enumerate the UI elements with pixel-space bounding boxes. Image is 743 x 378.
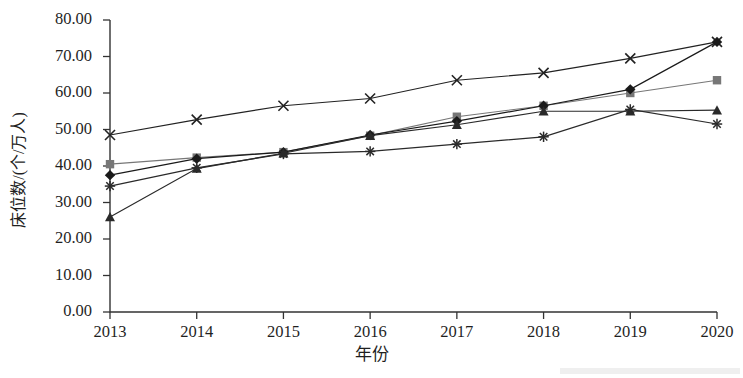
y-axis-tick-label: 30.00 bbox=[55, 192, 92, 212]
series-line bbox=[110, 80, 717, 164]
data-point-square bbox=[106, 160, 114, 168]
page-edge-artifact bbox=[560, 368, 740, 374]
x-axis-tick-label: 2013 bbox=[94, 322, 127, 342]
y-axis-tick-label: 50.00 bbox=[55, 119, 92, 139]
data-point-asterisk bbox=[365, 146, 375, 156]
data-point-square bbox=[713, 76, 721, 84]
y-axis-tick-label: 40.00 bbox=[55, 155, 92, 175]
series-triangle bbox=[105, 105, 722, 221]
data-point-diamond bbox=[105, 170, 115, 180]
x-axis-tick-label: 2016 bbox=[354, 322, 387, 342]
y-axis-tick-label: 60.00 bbox=[55, 82, 92, 102]
y-axis-tick-label: 0.00 bbox=[63, 301, 92, 321]
x-axis-tick-label: 2017 bbox=[440, 322, 473, 342]
data-point-asterisk bbox=[452, 139, 462, 149]
data-point-asterisk bbox=[192, 163, 202, 173]
line-chart: 床位数/(个/万人) 年份 80.0070.0060.0050.0040.003… bbox=[0, 0, 743, 378]
x-axis-tick-label: 2014 bbox=[180, 322, 213, 342]
y-axis-title: 床位数/(个/万人) bbox=[5, 70, 29, 270]
y-axis-tick-label: 10.00 bbox=[55, 265, 92, 285]
data-point-asterisk bbox=[625, 104, 635, 114]
data-point-asterisk bbox=[538, 132, 548, 142]
series-line bbox=[110, 42, 717, 135]
data-point-asterisk bbox=[712, 119, 722, 129]
series-asterisk bbox=[105, 104, 722, 191]
y-axis-tick-label: 70.00 bbox=[55, 46, 92, 66]
y-axis-tick-label: 20.00 bbox=[55, 228, 92, 248]
data-point-asterisk bbox=[278, 149, 288, 159]
x-axis-title: 年份 bbox=[0, 340, 743, 365]
x-axis-tick-label: 2019 bbox=[614, 322, 647, 342]
y-axis-tick-label: 80.00 bbox=[55, 9, 92, 29]
x-axis-tick-label: 2015 bbox=[267, 322, 300, 342]
x-axis-tick-label: 2018 bbox=[527, 322, 560, 342]
axis-spine bbox=[110, 20, 717, 312]
data-point-triangle bbox=[105, 212, 115, 221]
series-line bbox=[110, 109, 717, 186]
x-axis-tick-label: 2020 bbox=[701, 322, 734, 342]
data-point-asterisk bbox=[105, 181, 115, 191]
